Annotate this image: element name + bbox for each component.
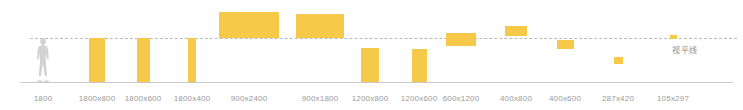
axis-label: 105x297 [657,94,689,103]
bar-105-297 [670,35,677,39]
axis-label: 1800x800 [79,94,116,103]
axis-label: 900x2400 [231,94,268,103]
axis-labels: 18001800x8001800x6001800x400900x2400900x… [0,94,743,108]
axis-label: 1800x600 [125,94,162,103]
axis-label: 1800 [34,94,53,103]
axis-label: 287x420 [602,94,634,103]
bar-1800-400 [188,38,196,82]
axis-label: 900x1800 [302,94,339,103]
bar-900-2400 [219,12,279,38]
bar-400-800 [505,26,527,36]
axis-label: 400x800 [500,94,532,103]
axis-label: 400x600 [549,94,581,103]
bar-400-600 [557,40,574,49]
horizon-label: 视平线 [672,44,698,55]
bar-600-1200 [446,33,476,46]
ground-line [20,82,733,83]
bar-900-1800 [296,14,344,38]
axis-label: 1200x600 [401,94,438,103]
axis-label: 600x1200 [443,94,480,103]
axis-label: 1200x800 [352,94,389,103]
bar-287-420 [614,57,623,64]
bar-1800-600 [137,38,150,82]
human-figure-icon [34,38,52,83]
bar-1200-800 [361,48,379,82]
bar-1200-600 [412,49,427,82]
bar-1800-800 [89,38,105,82]
eye-level-scale-diagram: 视平线 18001800x8001800x6001800x400900x2400… [0,0,743,110]
axis-label: 1800x400 [174,94,211,103]
